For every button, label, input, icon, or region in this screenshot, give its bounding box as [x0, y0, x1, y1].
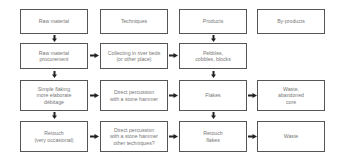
arrow-down-icon — [52, 35, 57, 42]
header-by-products: By-products — [257, 9, 325, 34]
arrow-down-icon — [211, 71, 216, 78]
stage-procurement: Raw material procurement — [20, 43, 88, 69]
byproduct-waste-core: Waste, abandoned core — [257, 80, 325, 111]
byproduct-waste: Waste — [257, 121, 325, 152]
stage-flaking: Simple flaking more elaborate débitage — [20, 80, 88, 111]
technique-collecting: Collecting in river beds (or other place… — [100, 43, 168, 69]
arrow-right-icon — [169, 53, 178, 58]
header-techniques: Techniques — [100, 9, 168, 34]
arrow-right-icon — [248, 134, 257, 139]
product-retouch-flakes: Retouch flakes — [179, 121, 247, 152]
stage-retouch: Retouch (very occasional) — [20, 121, 88, 152]
arrow-down-icon — [211, 35, 216, 42]
header-products: Products — [179, 9, 247, 34]
header-raw-material: Raw material — [20, 9, 88, 34]
product-flakes: Flakes — [179, 80, 247, 111]
technique-direct-percussion: Direct percussion with a stone hammer — [100, 80, 168, 111]
arrow-right-icon — [248, 93, 257, 98]
arrow-right-icon — [90, 53, 99, 58]
arrow-down-icon — [52, 112, 57, 119]
arrow-right-icon — [169, 134, 178, 139]
arrow-down-icon — [52, 71, 57, 78]
arrow-right-icon — [90, 134, 99, 139]
product-pebbles: Pebbles, cobbles, blocks — [179, 43, 247, 69]
arrow-right-icon — [90, 93, 99, 98]
arrow-right-icon — [169, 93, 178, 98]
arrow-down-icon — [211, 112, 216, 119]
technique-percussion-other: Direct percussion with a stone hammer ot… — [100, 121, 168, 152]
